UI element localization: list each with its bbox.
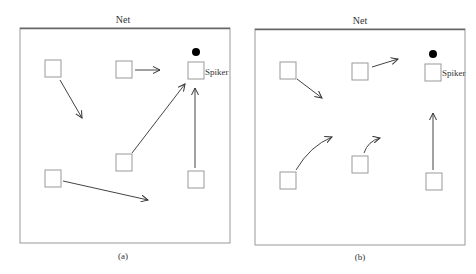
ball: [429, 50, 437, 58]
player-square: [116, 154, 132, 171]
spiker-square: [425, 64, 441, 81]
player-square: [352, 63, 368, 80]
caption-b: (b): [355, 252, 366, 262]
caption-a: (a): [118, 251, 128, 261]
movement-arrow: [60, 80, 82, 118]
player-square: [426, 173, 442, 190]
player-square: [45, 170, 61, 187]
player-square: [188, 171, 204, 188]
net-label: Net: [353, 15, 368, 26]
ball: [192, 48, 200, 56]
net-label: Net: [116, 14, 131, 25]
curved-movement-arrow: [296, 137, 332, 170]
player-square: [352, 156, 368, 173]
player-square: [280, 172, 296, 189]
figure-canvas: Net Spiker (a) Net Spiker (b): [0, 0, 476, 274]
spiker-label: Spiker: [442, 68, 466, 78]
movement-arrow: [297, 79, 322, 98]
player-square: [280, 62, 296, 79]
movement-arrow: [132, 84, 185, 153]
player-square: [116, 61, 132, 78]
panel-b: Net Spiker (b): [255, 15, 466, 262]
spiker-label: Spiker: [205, 67, 229, 77]
curved-movement-arrow: [364, 138, 380, 153]
player-square: [45, 60, 61, 77]
movement-arrow: [372, 59, 398, 67]
spiker-square: [188, 62, 204, 79]
movement-arrow: [63, 181, 148, 200]
panel-a: Net Spiker (a): [20, 14, 230, 261]
